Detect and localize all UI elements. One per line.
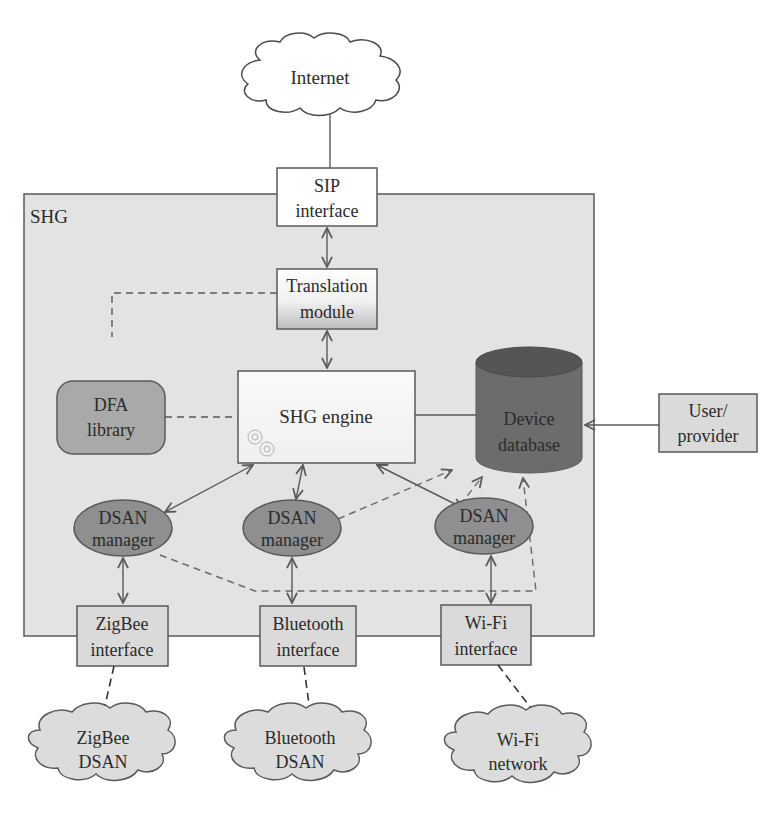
sip-interface-box: SIP interface (277, 168, 377, 226)
wifi-network-line1: Wi-Fi (497, 730, 539, 750)
bluetooth-interface-line2: interface (277, 640, 340, 660)
dsan-manager-2: DSAN manager (243, 500, 341, 556)
wifi-network-line2: network (489, 754, 548, 774)
translation-module-line2: module (300, 302, 354, 322)
dfa-library-box: DFA library (57, 381, 165, 454)
zigbee-dsan-line1: ZigBee (77, 728, 130, 748)
dsan-manager-3: DSAN manager (435, 498, 533, 554)
zigbee-dsan-cloud: ZigBee DSAN (28, 703, 175, 780)
dfa-library-line2: library (87, 420, 135, 440)
translation-module-box: Translation module (277, 269, 377, 329)
dsan-manager-1-line2: manager (92, 530, 154, 550)
bluetooth-dsan-line2: DSAN (275, 752, 324, 772)
user-provider-line2: provider (678, 426, 739, 446)
dsan-manager-2-line2: manager (261, 530, 323, 550)
bluetooth-dsan-line1: Bluetooth (265, 728, 336, 748)
zigbee-interface-box: ZigBee interface (77, 606, 168, 666)
dsan-manager-2-line1: DSAN (267, 508, 316, 528)
translation-module-line1: Translation (286, 276, 367, 296)
wifi-interface-box: Wi-Fi interface (441, 605, 531, 665)
device-database-cylinder: Device database (476, 347, 582, 473)
zigbee-interface-line1: ZigBee (96, 614, 149, 634)
shg-engine-label: SHG engine (279, 406, 372, 427)
dfa-library-line1: DFA (94, 395, 129, 415)
bluetooth-interface-box: Bluetooth interface (260, 606, 356, 666)
shg-container-label: SHG (30, 206, 68, 227)
dsan-manager-1: DSAN manager (74, 500, 172, 556)
user-provider-box: User/ provider (659, 394, 757, 452)
user-provider-line1: User/ (689, 401, 728, 421)
wifi-network-cloud: Wi-Fi network (444, 705, 591, 782)
device-database-line1: Device (504, 409, 555, 429)
sip-interface-line2: interface (296, 201, 359, 221)
internet-cloud: Internet (242, 33, 400, 115)
dsan-manager-3-line1: DSAN (459, 506, 508, 526)
shg-engine-box: SHG engine (238, 371, 415, 463)
zigbee-dsan-line2: DSAN (78, 752, 127, 772)
shg-architecture-diagram: SHG Internet SIP interface Translation m… (0, 0, 773, 814)
bluetooth-interface-line1: Bluetooth (273, 614, 344, 634)
wifi-interface-line1: Wi-Fi (465, 613, 507, 633)
wifi-interface-line2: interface (455, 639, 518, 659)
dsan-manager-1-line1: DSAN (98, 508, 147, 528)
dsan-manager-3-line2: manager (453, 528, 515, 548)
device-database-line2: database (498, 435, 560, 455)
sip-interface-line1: SIP (314, 176, 340, 196)
zigbee-cloud-link (104, 666, 114, 710)
zigbee-interface-line2: interface (91, 640, 154, 660)
bluetooth-dsan-cloud: Bluetooth DSAN (224, 703, 371, 780)
internet-label: Internet (290, 67, 350, 88)
